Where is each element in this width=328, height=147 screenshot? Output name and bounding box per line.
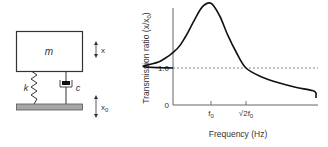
damper-label: c [76, 83, 81, 93]
y-axis-label: Transmission ratio (x/x0) [141, 12, 152, 104]
spring [31, 72, 37, 105]
base-displacement-label: x0 [101, 103, 109, 113]
x-tick-label-root2-f0: √2f0 [239, 109, 254, 119]
transmissibility-chart: Transmission ratio (x/x0) 1.0 0 f0 √2f0 … [141, 3, 318, 139]
mass-label: m [45, 46, 53, 57]
spring-label: k [24, 83, 29, 93]
transmissibility-curve [143, 3, 316, 98]
x-axis-label: Frequency (Hz) [209, 129, 268, 139]
mass-spring-damper-system: m k c x x0 [17, 32, 110, 119]
base-displacement-arrow-icon [94, 95, 98, 118]
base-plate [17, 104, 83, 110]
mass-displacement-arrow-icon [94, 41, 98, 58]
damper [60, 72, 72, 105]
mass-displacement-label: x [101, 46, 105, 55]
x-tick-label-f0: f0 [208, 109, 214, 119]
diagram: m k c x x0 Transmission ratio (x/x0) [0, 0, 328, 147]
y-tick-label-0: 0 [165, 101, 170, 110]
